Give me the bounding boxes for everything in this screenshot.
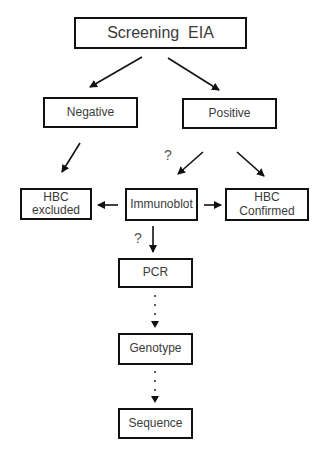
node-immunoblot: Immunoblot — [125, 188, 198, 221]
node-label: Genotype — [129, 342, 181, 355]
arrow-screening-to-positive — [168, 58, 219, 90]
arrow-positive-to-hbc-confirmed — [237, 152, 264, 176]
node-genotype: Genotype — [118, 333, 193, 365]
dotted-arrow-pcr-to-genotype — [151, 295, 159, 328]
question-mark-immunoblot-pcr: ? — [134, 230, 142, 246]
node-screening-eia: Screening EIA — [74, 17, 247, 49]
dotted-arrow-genotype-to-sequence — [151, 371, 159, 403]
node-label: Screening EIA — [107, 24, 214, 42]
node-pcr: PCR — [118, 258, 193, 288]
node-sequence: Sequence — [118, 408, 193, 439]
node-positive: Positive — [182, 98, 277, 129]
node-hbc-confirmed: HBC Confirmed — [225, 188, 309, 221]
node-negative: Negative — [43, 97, 138, 128]
node-label: Positive — [208, 107, 250, 120]
node-label-line2: excluded — [32, 204, 80, 217]
node-label: Negative — [67, 106, 114, 119]
arrow-screening-to-negative — [90, 57, 142, 87]
node-label: PCR — [143, 266, 168, 279]
node-label: Immunoblot — [130, 198, 193, 211]
question-mark-positive-immunoblot: ? — [164, 147, 172, 163]
node-label: Sequence — [128, 417, 182, 430]
arrow-negative-to-hbc-excluded — [62, 143, 80, 172]
connector-arrows — [0, 0, 315, 455]
node-label-line1: HBC — [254, 191, 279, 204]
node-label-line2: Confirmed — [239, 205, 294, 218]
arrow-positive-to-immunoblot — [178, 152, 203, 174]
node-hbc-excluded: HBC excluded — [20, 188, 92, 220]
